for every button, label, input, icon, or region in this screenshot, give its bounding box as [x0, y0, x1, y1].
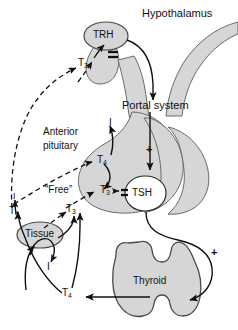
t3-pituitary-label: T3: [100, 185, 110, 197]
arrow-periphery-to-pituitary: [72, 213, 80, 288]
iodide-pituitary-label: I: [109, 118, 112, 128]
t4-free-label: T4: [9, 206, 19, 218]
iodide-tissue-lower-label: I: [47, 262, 50, 272]
tissue-label: Tissue: [25, 229, 54, 239]
t3-free-label: T3: [66, 204, 76, 216]
t4-pituitary-sub: 4: [103, 159, 107, 166]
diagram-canvas: [0, 0, 238, 330]
tsh-label: TSH: [132, 188, 152, 198]
t3-pituitary-sub: 3: [106, 189, 110, 196]
t3-free-sub: 3: [72, 208, 76, 215]
plus-sign-portal: +: [146, 143, 152, 155]
portal-system-label: Portal system: [122, 100, 189, 111]
arrow-t4-into-tissue: [25, 246, 34, 290]
thyroid-label: Thyroid: [133, 276, 166, 286]
t4-thyroid-output-label: T4: [62, 288, 72, 300]
anatomy-shapes: [17, 22, 238, 316]
t4-free-sub: 4: [15, 210, 19, 217]
t3-hypothalamus-label: T3: [78, 58, 88, 70]
plus-sign-thyroid: +: [211, 246, 217, 258]
thyroid-axis-diagram: Hypothalamus TRH T3 Portal system Anteri…: [0, 0, 238, 330]
trh-label: TRH: [93, 30, 114, 40]
t4-pituitary-label: T4: [97, 155, 107, 167]
hypothalamus-label: Hypothalamus: [142, 8, 212, 19]
anterior-pituitary-label-line1: Anterior: [43, 127, 78, 137]
iodide-tissue-upper-label: I: [13, 192, 16, 201]
anterior-pituitary-label-line2: pituitary: [43, 141, 78, 151]
t3-hypothalamus-sub: 3: [84, 62, 88, 69]
t4-thyroid-output-sub: 4: [68, 292, 72, 299]
free-label: “Free”: [45, 185, 72, 195]
